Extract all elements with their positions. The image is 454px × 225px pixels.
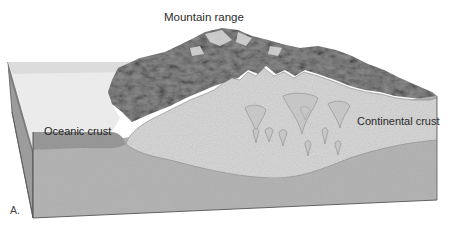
- continental-crust-label: Continental crust: [357, 116, 440, 127]
- mountain-range-label: Mountain range: [164, 12, 244, 24]
- oceanic-crust-label: Oceanic crust: [44, 126, 111, 137]
- block-diagram: [0, 0, 454, 225]
- ocean-surface-far: [8, 62, 130, 74]
- panel-label: A.: [10, 205, 20, 216]
